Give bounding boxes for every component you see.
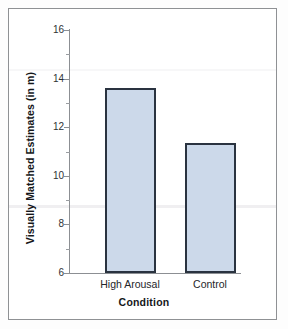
y-axis-tick-label: 10 — [53, 171, 64, 181]
y-axis-tick-minor — [66, 200, 70, 201]
y-axis-tick-label: 8 — [58, 219, 64, 229]
figure-root: 6810121416 High ArousalControl Condition… — [0, 0, 288, 329]
y-axis-tick-major — [64, 79, 70, 80]
y-axis-tick-minor — [66, 103, 70, 104]
y-axis-tick-minor — [66, 54, 70, 55]
x-axis-category-label: Control — [150, 278, 270, 290]
y-axis-tick-minor — [66, 249, 70, 250]
x-axis-title: Condition — [0, 296, 288, 308]
y-axis-tick-label: 16 — [53, 25, 64, 35]
y-axis-tick-major — [64, 224, 70, 225]
y-axis-tick-label: 12 — [53, 122, 64, 132]
y-axis-tick-major — [64, 127, 70, 128]
y-axis-tick-label: 6 — [58, 268, 64, 278]
y-axis-tick-major — [64, 30, 70, 31]
y-axis-tick-label: 14 — [53, 74, 64, 84]
y-axis-tick-major — [64, 273, 70, 274]
x-axis-line — [69, 273, 241, 274]
scan-artifact-band — [9, 69, 276, 71]
y-axis-title: Visually Matched Estimates (in m) — [24, 48, 36, 268]
y-axis-tick-minor — [66, 152, 70, 153]
y-axis-tick-major — [64, 176, 70, 177]
bar — [105, 88, 156, 273]
bar — [185, 143, 236, 273]
